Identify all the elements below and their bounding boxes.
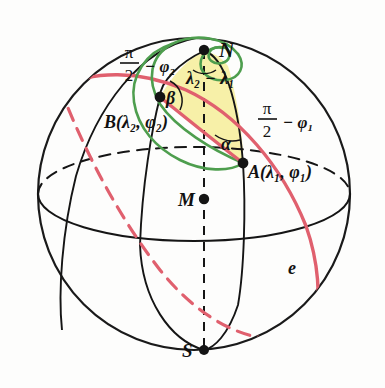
label-great-circle-e: e — [288, 258, 296, 278]
point-n-dot — [199, 45, 209, 55]
point-b-dot — [155, 92, 166, 103]
label-point-a: A(λ₁, φ₁) — [247, 162, 312, 183]
label-side-left-rest: − φ₂ — [145, 57, 175, 76]
label-side-right-numerator: π — [263, 99, 272, 118]
sphere-diagram: N S M A(λ₁, φ₁) B(λ₂, φ₂) β α λ₂ − λ₁ π … — [0, 0, 385, 388]
label-angle-beta: β — [165, 88, 176, 108]
label-pole-angle: λ₂ − λ₁ — [185, 68, 234, 88]
label-center: M — [177, 189, 196, 210]
label-side-right-rest: − φ₁ — [283, 113, 313, 132]
label-side-left-numerator: π — [125, 43, 134, 62]
label-side-right: π 2 − φ₁ — [258, 99, 313, 141]
label-angle-alpha: α — [221, 134, 232, 154]
label-side-right-denominator: 2 — [263, 122, 272, 141]
label-side-left-denominator: 2 — [125, 66, 134, 85]
label-north-pole: N — [218, 38, 235, 62]
label-point-b: B(λ₂, φ₂) — [103, 112, 168, 133]
point-m-dot — [199, 194, 209, 204]
figure-root: N S M A(λ₁, φ₁) B(λ₂, φ₂) β α λ₂ − λ₁ π … — [0, 0, 385, 388]
label-south-pole: S — [182, 340, 193, 361]
point-s-dot — [199, 345, 209, 355]
point-a-dot — [238, 158, 249, 169]
